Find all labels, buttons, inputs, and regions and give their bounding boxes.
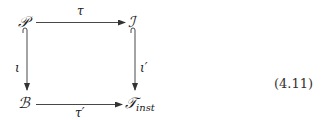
label-iota-prime: ι′: [140, 62, 147, 74]
node-B: ℬ: [18, 96, 30, 111]
equation-number: (4.11): [274, 77, 313, 90]
node-P: 𝒫: [18, 15, 29, 30]
node-I: ℐ: [128, 15, 135, 30]
node-T-symbol: 𝒯: [125, 94, 136, 112]
node-T-subscript: inst: [136, 102, 155, 113]
node-B-symbol: ℬ: [18, 94, 30, 112]
arrow-iota-hook: [23, 28, 27, 90]
node-I-symbol: ℐ: [128, 13, 135, 31]
arrow-iota-prime-hook: [131, 28, 135, 90]
diagram-arrows: [0, 0, 326, 120]
node-T-inst: 𝒯inst: [125, 96, 155, 113]
node-P-symbol: 𝒫: [18, 13, 29, 31]
label-tau-prime: τ′: [75, 107, 84, 119]
label-iota: ι: [15, 62, 20, 74]
label-tau: τ: [77, 5, 84, 17]
